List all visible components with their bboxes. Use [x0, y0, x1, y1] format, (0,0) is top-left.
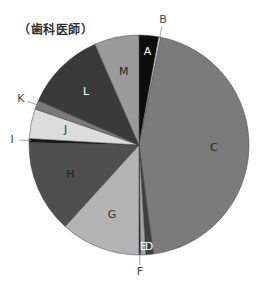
slice-label-h: H	[66, 168, 74, 181]
slice-label-i: I	[10, 133, 13, 146]
slice-label-g: G	[108, 208, 117, 221]
pie-slice-c	[139, 37, 249, 254]
pie-chart: ABCDEFGHIJKLM	[0, 0, 270, 289]
slice-label-k: K	[17, 92, 25, 105]
slice-label-j: J	[63, 123, 67, 136]
leader-line-k	[27, 101, 38, 105]
slice-label-m: M	[119, 65, 129, 78]
slice-label-l: L	[83, 85, 90, 98]
slice-label-f: F	[137, 265, 143, 278]
slice-label-c: C	[210, 141, 218, 154]
slice-label-b: B	[159, 13, 167, 26]
slice-label-a: A	[144, 45, 152, 58]
